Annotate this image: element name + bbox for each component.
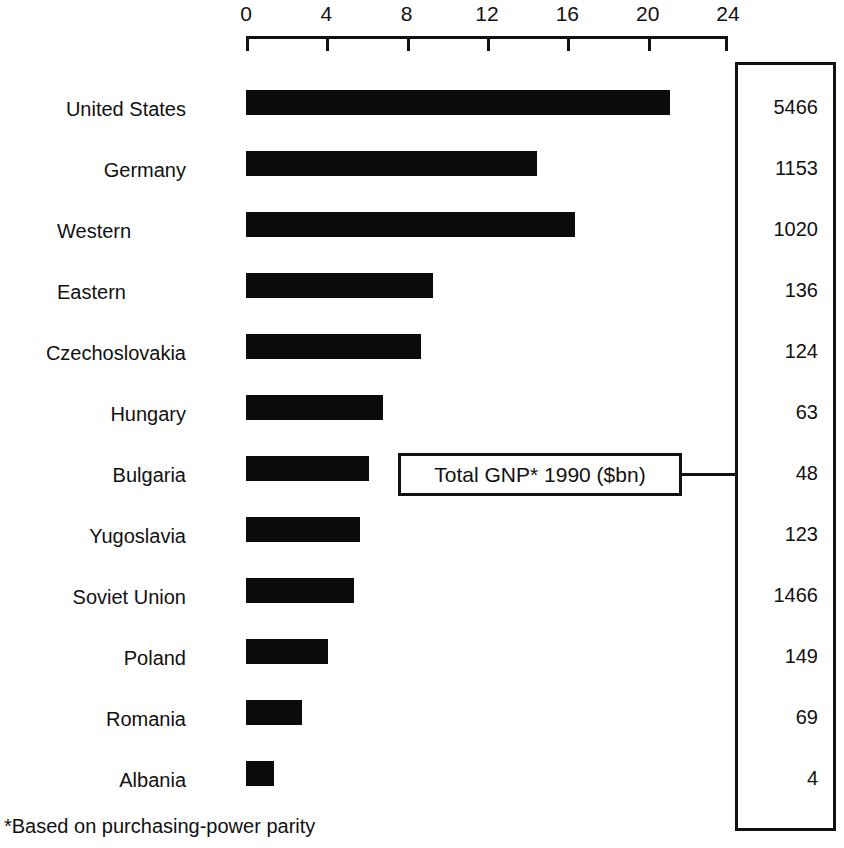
callout-label: Total GNP* 1990 ($bn) — [434, 463, 645, 487]
category-label: Albania — [0, 767, 186, 793]
chart-row: Eastern136 — [0, 267, 844, 328]
gnp-value: 63 — [718, 399, 818, 425]
x-axis-tick-mark — [246, 36, 249, 51]
category-label: Bulgaria — [0, 462, 186, 488]
chart-row: Soviet Union1466 — [0, 572, 844, 633]
gnp-value: 4 — [718, 765, 818, 791]
category-label: Germany — [0, 157, 186, 183]
category-label: Czechoslovakia — [0, 340, 186, 366]
bar — [246, 578, 354, 603]
chart-row: Germany1153 — [0, 145, 844, 206]
x-axis-tick-label: 24 — [698, 2, 758, 26]
x-axis-tick-mark — [567, 36, 570, 51]
category-label: Eastern — [0, 279, 186, 305]
gnp-value: 124 — [718, 338, 818, 364]
plot-area: United States5466Germany1153Western1020E… — [0, 60, 844, 805]
x-axis-tick-mark — [648, 36, 651, 51]
gnp-value: 1020 — [718, 216, 818, 242]
chart-row: Romania69 — [0, 694, 844, 755]
chart-row: Albania4 — [0, 755, 844, 816]
chart-row: Western1020 — [0, 206, 844, 267]
category-label: Hungary — [0, 401, 186, 427]
gnp-value: 69 — [718, 704, 818, 730]
bar — [246, 639, 328, 664]
category-label: Yugoslavia — [0, 523, 186, 549]
chart-row: Hungary63 — [0, 389, 844, 450]
category-label: United States — [0, 96, 186, 122]
x-axis-tick-label: 0 — [216, 2, 276, 26]
gnp-value: 1153 — [718, 155, 818, 181]
chart-row: Yugoslavia123 — [0, 511, 844, 572]
bar-chart: 04812162024 United States5466Germany1153… — [0, 0, 844, 848]
bar — [246, 273, 433, 298]
category-label: Poland — [0, 645, 186, 671]
bar — [246, 761, 274, 786]
gnp-value: 123 — [718, 521, 818, 547]
x-axis-tick-label: 16 — [537, 2, 597, 26]
chart-row: Poland149 — [0, 633, 844, 694]
gnp-value: 136 — [718, 277, 818, 303]
x-axis-tick-label: 4 — [296, 2, 356, 26]
bar — [246, 90, 670, 115]
callout-connector-line — [682, 473, 735, 476]
gnp-value: 5466 — [718, 94, 818, 120]
footnote: *Based on purchasing-power parity — [4, 813, 315, 839]
category-label: Soviet Union — [0, 584, 186, 610]
gnp-value: 149 — [718, 643, 818, 669]
category-label: Western — [0, 218, 186, 244]
bar — [246, 456, 369, 481]
x-axis-tick-mark — [407, 36, 410, 51]
category-label: Romania — [0, 706, 186, 732]
bar — [246, 517, 360, 542]
gnp-value: 1466 — [718, 582, 818, 608]
x-axis-tick-label: 20 — [618, 2, 678, 26]
x-axis: 04812162024 — [0, 0, 844, 60]
bar — [246, 151, 537, 176]
x-axis-tick-mark — [326, 36, 329, 51]
chart-row: Czechoslovakia124 — [0, 328, 844, 389]
x-axis-tick-label: 12 — [457, 2, 517, 26]
x-axis-tick-mark — [725, 36, 728, 51]
chart-row: United States5466 — [0, 84, 844, 145]
x-axis-tick-mark — [487, 36, 490, 51]
bar — [246, 395, 383, 420]
bar — [246, 700, 302, 725]
bar — [246, 334, 421, 359]
x-axis-tick-label: 8 — [377, 2, 437, 26]
bar — [246, 212, 575, 237]
callout-box: Total GNP* 1990 ($bn) — [398, 453, 682, 496]
